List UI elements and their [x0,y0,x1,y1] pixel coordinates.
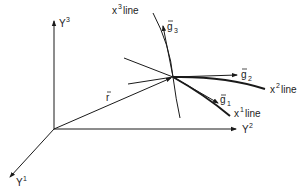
g3-vector-label: g 3 [167,21,178,34]
svg-text:Y: Y [16,177,23,188]
svg-text:x: x [234,108,239,119]
svg-text:1: 1 [23,175,27,182]
x1-line-label: x 1 line [234,106,261,119]
svg-text:2: 2 [276,82,280,89]
y2-axis-label: Y 2 [242,122,253,135]
svg-text:1: 1 [227,100,231,107]
svg-text:2: 2 [249,122,253,129]
svg-text:line: line [245,108,261,119]
svg-text:g: g [167,21,173,32]
svg-text:3: 3 [66,16,70,23]
position-vector-r [54,78,171,129]
g1-vector [173,77,218,103]
position-vector-label: r [106,92,111,103]
svg-text:1: 1 [240,106,244,113]
svg-text:3: 3 [118,3,122,10]
y3-axis-label: Y 3 [59,16,70,29]
svg-text:g: g [220,94,226,105]
svg-text:x: x [270,84,275,95]
g1-vector-label: g 1 [220,94,231,107]
svg-text:line: line [123,5,139,16]
y1-axis [10,129,54,177]
g2-vector-label: g 2 [241,69,252,82]
svg-text:line: line [281,84,297,95]
coordinate-diagram: Y 3 Y 2 Y 1 r x 3 line x 2 line x 1 line… [0,0,308,188]
y1-axis-label: Y 1 [16,175,27,188]
svg-text:g: g [241,69,247,80]
svg-text:2: 2 [248,75,252,82]
x3-line-label: x 3 line [112,3,139,16]
svg-text:x: x [112,5,117,16]
svg-text:r: r [106,92,110,103]
svg-text:Y: Y [242,124,249,135]
svg-text:3: 3 [174,27,178,34]
x2-line-label: x 2 line [270,82,297,95]
g3-vector [163,26,173,77]
svg-text:Y: Y [59,18,66,29]
